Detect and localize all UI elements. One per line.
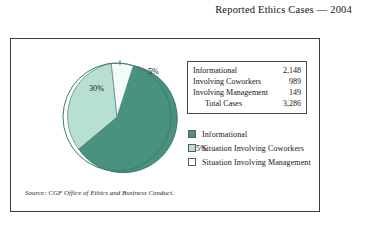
data-summary-table: Informational 2,148 Involving Coworkers …: [193, 65, 301, 109]
legend-item-informational: Informational: [188, 127, 311, 141]
table-cell-value: 989: [280, 76, 301, 87]
legend-label-informational: Informational: [202, 130, 247, 139]
legend-item-management: Situation Involving Management: [188, 155, 311, 169]
data-summary-box: Informational 2,148 Involving Coworkers …: [187, 61, 307, 114]
table-cell-label: Involving Management: [193, 87, 280, 98]
table-cell-value: 2,148: [280, 65, 301, 76]
legend-label-management: Situation Involving Management: [202, 158, 311, 167]
pie-chart-svg: [54, 49, 184, 179]
table-cell-label: Involving Coworkers: [193, 76, 280, 87]
table-row: Involving Coworkers 989: [193, 76, 301, 87]
table-row: Informational 2,148: [193, 65, 301, 76]
pie-label-management: 5%: [148, 67, 159, 76]
source-note: Source: CGF Office of Ethics and Busines…: [25, 189, 174, 196]
table-row: Involving Management 149: [193, 87, 301, 98]
figure-frame: 5% 30% 65% Informational 2,148 Involving…: [10, 38, 320, 212]
table-cell-label: Informational: [193, 65, 280, 76]
pie-label-coworkers: 30%: [89, 84, 104, 93]
legend-item-coworkers: Situation Involving Coworkers: [188, 141, 311, 155]
legend-label-coworkers: Situation Involving Coworkers: [202, 144, 304, 153]
legend-swatch-coworkers: [188, 144, 196, 152]
table-cell-value: 149: [280, 87, 301, 98]
pie-chart: 5% 30% 65%: [54, 49, 184, 179]
table-row-total: Total Cases 3,286: [193, 98, 301, 109]
legend-swatch-management: [188, 158, 196, 166]
page-title: Reported Ethics Cases — 2004: [0, 4, 352, 15]
table-cell-value-total: 3,286: [280, 98, 301, 109]
legend: Informational Situation Involving Cowork…: [188, 127, 311, 169]
table-cell-label-total: Total Cases: [193, 98, 280, 109]
legend-swatch-informational: [188, 130, 196, 138]
